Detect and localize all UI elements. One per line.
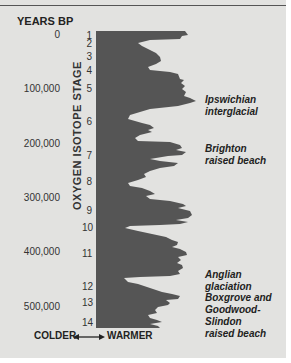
annotation-line: Ipswichian [205,94,258,106]
annotation-line: interglacial [205,106,258,118]
annotation-boxgrove: Boxgrove and Goodwood-Slindon raised bea… [205,292,286,340]
warmer-label: WARMER [107,330,153,341]
chart-panel: YEARS BP 0 100,000 200,000 300,000 400,0… [0,0,286,358]
annotation-line: Boxgrove and [205,292,286,304]
annotation-line: Anglian glaciation [205,269,286,293]
annotation-anglian: Anglian glaciation [205,269,286,293]
colder-label: COLDER [34,330,76,341]
annotation-line: raised beach [205,155,266,167]
annotation-line: raised beach [205,328,286,340]
annotation-line: Brighton [205,143,266,155]
annotation-ipswichian: Ipswichian interglacial [205,94,258,118]
annotation-line: Goodwood-Slindon [205,304,286,328]
annotation-brighton: Brighton raised beach [205,143,266,167]
double-arrow-icon [73,333,105,341]
